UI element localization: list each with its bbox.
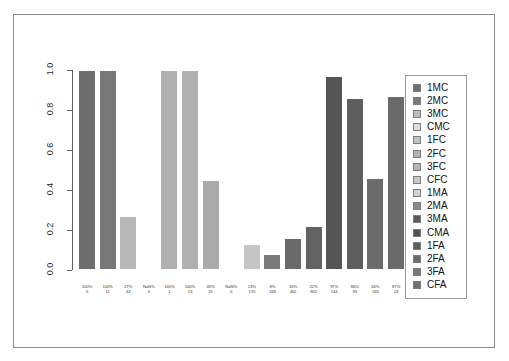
bar-count-label: 0 [220,289,242,294]
legend-label: 3FC [427,162,446,172]
legend-swatch-icon [413,268,421,276]
x-axis-label-group: 100%11 [97,284,119,295]
legend-label: 1FC [427,135,446,145]
legend-swatch-icon [413,176,421,184]
bar-chart-plot: 0.00.20.40.60.81.0 100%5100%1127%44NaN%0… [0,0,509,361]
bar-count-label: 462 [282,289,304,294]
bar-count-label: 1 [158,289,180,294]
x-axis-label-group: 46%165 [364,284,386,295]
bar-count-label: 165 [364,289,386,294]
legend-swatch-icon [413,84,421,92]
legend-label: 2MC [427,96,448,106]
bar-count-label: 31 [200,289,222,294]
legend-item-cfa: CFA [406,279,466,292]
chart-legend: 1MC2MC3MCCMC1FC2FC3FCCFC1MA2MA3MACMA1FA2… [405,75,467,299]
legend-item-3fc: 3FC [406,160,466,173]
legend-swatch-icon [413,281,421,289]
legend-item-cma: CMA [406,226,466,239]
bar [284,238,302,270]
x-axis-label-group: 13%170 [241,284,263,295]
legend-label: 3MC [427,109,448,119]
x-axis-label-group: NaN%0 [220,284,242,295]
legend-label: CMC [427,122,450,132]
legend-item-1ma: 1MA [406,187,466,200]
legend-label: CFC [427,175,448,185]
x-axis-label-group: 100%1 [158,284,180,295]
bar [243,244,261,270]
legend-swatch-icon [413,242,421,250]
legend-item-2fc: 2FC [406,147,466,160]
legend-label: 3MA [427,214,448,224]
legend-label: 3FA [427,267,445,277]
bar-count-label: 170 [241,289,263,294]
legend-swatch-icon [413,163,421,171]
x-axis-label-group: 100%13 [179,284,201,295]
bar [202,180,220,270]
legend-swatch-icon [413,97,421,105]
bar-count-label: 93 [344,289,366,294]
x-axis-label-group: 97%144 [323,284,345,295]
bar-count-label: 862 [303,289,325,294]
legend-swatch-icon [413,229,421,237]
legend-label: 2MA [427,201,448,211]
legend-item-3mc: 3MC [406,107,466,120]
x-axis-label-group: 87%23 [385,284,407,295]
x-axis-label-group: 16%462 [282,284,304,295]
legend-label: 1MC [427,83,448,93]
legend-label: 2FC [427,149,446,159]
legend-label: CMA [427,228,449,238]
bar [99,70,117,270]
legend-swatch-icon [413,202,421,210]
legend-swatch-icon [413,150,421,158]
x-axis-label-group: 45%31 [200,284,222,295]
legend-item-1fa: 1FA [406,239,466,252]
x-axis-label-group: 100%5 [76,284,98,295]
bar [119,216,137,270]
bar-count-label: 144 [323,289,345,294]
legend-item-1fc: 1FC [406,134,466,147]
bar-count-label: 0 [138,289,160,294]
legend-swatch-icon [413,215,421,223]
bar-count-label: 5 [76,289,98,294]
bar [263,254,281,270]
bar [346,98,364,270]
x-axis-label-group: 27%44 [117,284,139,295]
legend-item-2fa: 2FA [406,252,466,265]
bar-count-label: 13 [179,289,201,294]
bar-count-label: 11 [97,289,119,294]
x-axis-label-group: NaN%0 [138,284,160,295]
legend-item-3fa: 3FA [406,266,466,279]
bar [160,70,178,270]
legend-item-cmc: CMC [406,121,466,134]
bar-count-label: 23 [385,289,407,294]
bar [181,70,199,270]
bar [387,96,405,270]
x-axis-label-group: 86%93 [344,284,366,295]
bar [366,178,384,270]
legend-label: 2FA [427,254,445,264]
y-axis-tick [67,270,72,271]
legend-swatch-icon [413,255,421,263]
x-axis-label-group: 8%168 [261,284,283,295]
legend-swatch-icon [413,110,421,118]
legend-item-3ma: 3MA [406,213,466,226]
legend-item-cfc: CFC [406,173,466,186]
x-axis-label-group: 22%862 [303,284,325,295]
legend-swatch-icon [413,136,421,144]
legend-label: 1FA [427,241,445,251]
legend-item-2ma: 2MA [406,200,466,213]
legend-label: CFA [427,280,446,290]
bar [78,70,96,270]
bar-count-label: 168 [261,289,283,294]
legend-item-1mc: 1MC [406,81,466,94]
legend-swatch-icon [413,189,421,197]
bar-count-label: 44 [117,289,139,294]
bar [325,76,343,270]
legend-item-2mc: 2MC [406,94,466,107]
legend-label: 1MA [427,188,448,198]
legend-swatch-icon [413,123,421,131]
bar [305,226,323,270]
